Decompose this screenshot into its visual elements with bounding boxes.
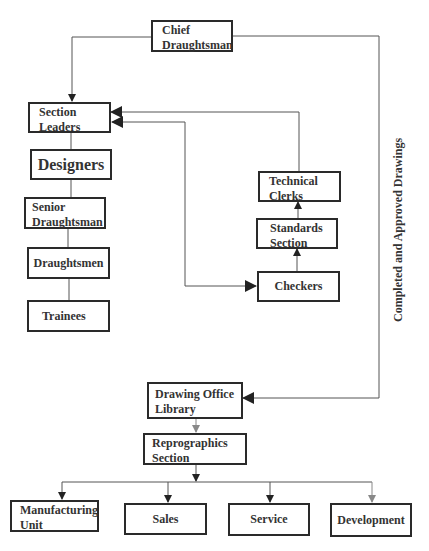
node-label: Section	[270, 236, 336, 251]
node-label: Section	[152, 451, 245, 466]
node-development: Development	[330, 503, 412, 537]
node-section-leaders: Section Leaders	[28, 102, 111, 133]
node-service: Service	[228, 503, 310, 536]
node-chief-draughtsman: Chief Draughtsman	[151, 20, 233, 52]
node-label: Designers	[38, 157, 105, 172]
node-label: Draughtsman	[162, 38, 231, 53]
node-sales: Sales	[124, 503, 207, 535]
node-label: Senior	[32, 200, 104, 215]
node-trainees: Trainees	[27, 300, 110, 332]
node-label: Development	[337, 513, 404, 528]
node-label: Manufacturing	[20, 503, 97, 518]
node-label: Standards	[270, 221, 336, 236]
node-label: Drawing Office	[155, 387, 241, 402]
node-designers: Designers	[30, 149, 112, 180]
edge-label-completed-drawings: Completed and Approved Drawings	[391, 138, 406, 322]
node-label: Chief	[162, 23, 231, 38]
node-manufacturing-unit: Manufacturing Unit	[10, 500, 99, 532]
node-senior-draughtsman: Senior Draughtsman	[24, 197, 106, 229]
node-label: Leaders	[39, 120, 109, 135]
node-label: Checkers	[275, 279, 323, 294]
node-label: Service	[250, 512, 287, 527]
node-draughtsmen: Draughtsmen	[27, 247, 110, 279]
node-label: Unit	[20, 518, 97, 533]
node-label: Reprographics	[152, 436, 245, 451]
node-checkers: Checkers	[257, 271, 340, 302]
node-label: Technical	[269, 174, 339, 189]
node-label: Sales	[152, 512, 178, 527]
node-drawing-office-library: Drawing Office Library	[147, 382, 243, 419]
node-label: Clerks	[269, 189, 339, 204]
node-technical-clerks: Technical Clerks	[258, 171, 341, 202]
node-reprographics-section: Reprographics Section	[143, 433, 247, 465]
node-label: Trainees	[42, 309, 86, 324]
node-label: Library	[155, 402, 241, 417]
node-standards-section: Standards Section	[256, 218, 338, 249]
node-label: Draughtsmen	[33, 256, 103, 271]
node-label: Draughtsman	[32, 215, 104, 230]
node-label: Section	[39, 105, 109, 120]
